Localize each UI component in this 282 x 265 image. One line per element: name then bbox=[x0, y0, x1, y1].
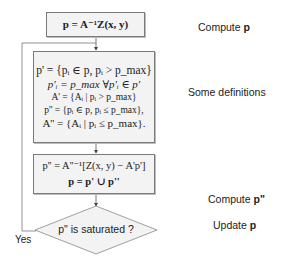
flowchart: p = A⁻¹Z(x, y) p' = {pᵢ ∈ p, pᵢ > p_max}… bbox=[0, 0, 282, 265]
update-p-line: p = p' ∪ p'' bbox=[68, 177, 120, 188]
side-label-compute-p: Compute p bbox=[198, 21, 250, 33]
definitions-box: p' = {pᵢ ∈ p, pᵢ > p_max} p'ᵢ = p_max ∀p… bbox=[33, 51, 155, 143]
definition-line: p'ᵢ = p_max ∀p'ᵢ ∈ p' bbox=[48, 79, 140, 90]
definition-line: A'' = {Aᵢ | pᵢ ≤ p_max}. bbox=[42, 118, 145, 129]
side-label-update-p: Update p bbox=[213, 219, 256, 231]
side-label-definitions: Some definitions bbox=[188, 86, 266, 98]
definition-line: A' = {Aᵢ | pᵢ > p_max} bbox=[51, 93, 136, 103]
definition-line: p' = {pᵢ ∈ p, pᵢ > p_max} bbox=[36, 65, 152, 77]
yes-label: Yes bbox=[15, 234, 31, 245]
compute-p-box: p = A⁻¹Z(x, y) bbox=[46, 12, 145, 37]
decision-text: p" is saturated ? bbox=[50, 223, 142, 235]
compute-p-formula: p = A⁻¹Z(x, y) bbox=[63, 19, 129, 30]
compute-p2-line: p'' = A''⁻¹[Z(x, y) − A'p'] bbox=[42, 161, 145, 172]
compute-p2-box: p'' = A''⁻¹[Z(x, y) − A'p'] p = p' ∪ p'' bbox=[33, 154, 155, 194]
side-label-compute-p2: Compute p" bbox=[208, 193, 265, 205]
definition-line: p'' = {pᵢ ∈ p, pᵢ ≤ p_max}, bbox=[44, 106, 144, 116]
